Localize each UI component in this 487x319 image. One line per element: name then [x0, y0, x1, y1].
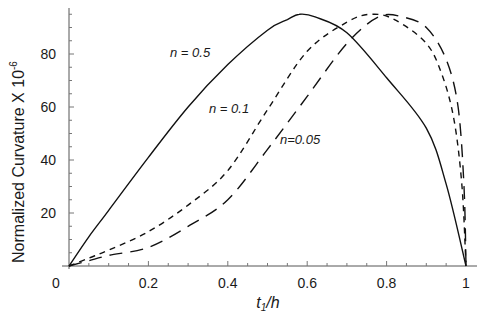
series-labels: n = 0.5n = 0.1n=0.05	[170, 45, 321, 147]
series-line-solid	[69, 14, 466, 266]
x-tick-labels: 0.20.40.60.81	[139, 275, 470, 291]
series-label: n=0.05	[280, 132, 321, 147]
x-tick-label: 0.6	[297, 275, 317, 291]
origin-label: 0	[52, 275, 60, 291]
y-tick-label: 20	[40, 205, 56, 221]
x-minor-ticks	[89, 261, 466, 266]
x-tick-label: 1	[462, 275, 470, 291]
series-label: n = 0.1	[209, 101, 249, 116]
axes: 0.20.40.60.81 20406080 0	[40, 8, 477, 291]
y-tick-label: 80	[40, 46, 56, 62]
y-axis-title: Normalized Curvature X 10-6	[8, 61, 27, 263]
series-lines	[69, 14, 466, 266]
x-tick-label: 0.8	[377, 275, 397, 291]
series-line-short-dash	[69, 14, 466, 266]
y-tick-labels: 20406080	[40, 46, 56, 221]
series-label: n = 0.5	[170, 45, 211, 60]
x-axis-title: t1/h	[256, 294, 279, 313]
series-line-long-dash	[69, 14, 466, 266]
curvature-chart: 0.20.40.60.81 20406080 0 t1/h Normalized…	[0, 0, 487, 319]
x-tick-label: 0.2	[139, 275, 159, 291]
y-minor-ticks	[69, 14, 74, 253]
x-tick-label: 0.4	[218, 275, 238, 291]
y-tick-label: 60	[40, 99, 56, 115]
y-tick-label: 40	[40, 152, 56, 168]
